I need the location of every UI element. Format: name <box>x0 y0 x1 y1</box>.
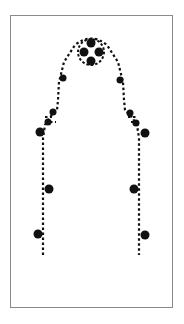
marker-dot <box>34 230 43 239</box>
cluster-dot <box>80 48 89 57</box>
left-outline-path <box>43 39 139 256</box>
markers <box>34 75 150 240</box>
marker-dot <box>130 185 139 194</box>
marker-dot <box>45 119 52 126</box>
dotted-outline <box>43 39 139 256</box>
marker-dot <box>127 110 134 117</box>
cluster-dot <box>87 39 96 48</box>
cluster-dot <box>87 57 96 66</box>
cluster-dot <box>95 48 104 57</box>
marker-dot <box>60 75 67 82</box>
marker-dot <box>141 129 150 138</box>
marker-dot <box>50 109 57 116</box>
top-cluster <box>78 39 104 66</box>
marker-dot <box>45 185 54 194</box>
marker-dot <box>141 231 150 240</box>
marker-dot <box>117 77 124 84</box>
dotted-outline-diagram <box>0 0 184 324</box>
marker-dot <box>36 128 45 137</box>
marker-dot <box>133 120 140 127</box>
